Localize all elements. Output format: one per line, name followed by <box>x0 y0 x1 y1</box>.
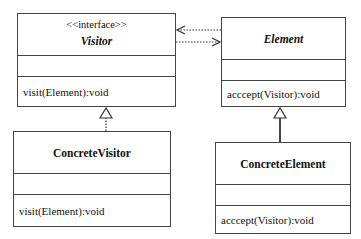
generalization-arrow <box>274 108 286 142</box>
dependency-arrow-to-element <box>176 38 220 46</box>
realization-arrow <box>100 108 112 131</box>
connectors <box>0 0 361 239</box>
dependency-arrow-to-visitor <box>177 26 221 34</box>
